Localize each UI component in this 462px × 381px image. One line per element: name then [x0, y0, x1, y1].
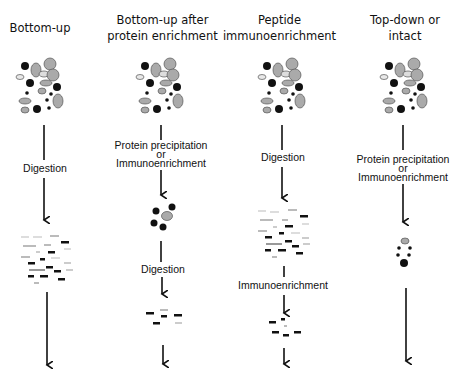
peptide-mixture [146, 309, 182, 325]
enriched-proteins [396, 238, 412, 267]
protein-mixture [380, 58, 427, 113]
step-text: Immunoenrichment [350, 172, 456, 183]
peptide-mixture [258, 209, 310, 258]
protein-mixture [136, 58, 183, 113]
step-label-digestion: Digestion [132, 264, 194, 275]
workflow-diagram [0, 0, 462, 381]
step-text: Digestion [261, 151, 305, 163]
step-label-precipitation: Protein precipitation or Immunoenrichmen… [350, 154, 456, 183]
protein-mixture [16, 58, 63, 113]
enriched-peptides [269, 318, 301, 337]
enriched-proteins [151, 204, 176, 231]
step-text: Digestion [141, 263, 185, 275]
peptide-mixture [21, 235, 73, 284]
step-text: Immunoenrichment [238, 279, 328, 291]
step-label-digestion: Digestion [14, 163, 76, 174]
step-label-immunoenrichment: Immunoenrichment [233, 280, 333, 291]
step-text: Digestion [23, 162, 67, 174]
step-label-precipitation: Protein precipitation or Immunoenrichmen… [108, 140, 214, 169]
step-text: Immunoenrichment [108, 158, 214, 169]
step-label-digestion: Digestion [252, 152, 314, 163]
protein-mixture [258, 58, 305, 113]
